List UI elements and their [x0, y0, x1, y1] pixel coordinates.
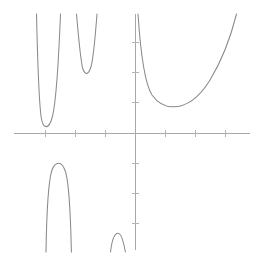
function-plot: [0, 0, 255, 263]
curve-branch-upper-right: [138, 14, 237, 107]
chart-canvas: [0, 0, 255, 263]
curve-branch-lower-right: [111, 233, 126, 252]
axes-group: [14, 14, 250, 250]
curve-branch-upper-left: [37, 14, 61, 127]
curve-branch-upper-middle: [77, 14, 98, 73]
curve-branch-lower-left: [46, 163, 71, 252]
